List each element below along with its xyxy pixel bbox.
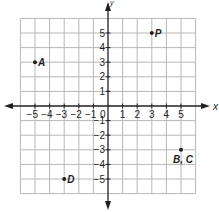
y-tick-label: −5 (94, 174, 106, 185)
x-axis-label: x (212, 101, 219, 112)
y-tick-label: −3 (94, 144, 106, 155)
x-tick-label: 3 (149, 109, 155, 120)
point-label: A (37, 57, 45, 68)
y-tick-label: 3 (99, 57, 105, 68)
y-tick-label: 5 (99, 28, 105, 39)
x-tick-label: 5 (178, 109, 184, 120)
y-tick-label: 1 (99, 86, 105, 97)
point-bc (179, 148, 183, 152)
point-d (62, 177, 66, 181)
y-tick-label: −4 (94, 159, 106, 170)
x-tick-label: −2 (70, 109, 82, 120)
coordinate-plane: xy −5−4−3−2−1012345−5−4−3−2−112345 APB, … (0, 0, 219, 212)
x-tick-label: 2 (134, 109, 140, 120)
y-tick-label: −2 (94, 130, 106, 141)
x-tick-label: −5 (27, 109, 39, 120)
x-tick-label: 1 (120, 109, 126, 120)
point-a (33, 60, 37, 64)
point-label: P (155, 28, 162, 39)
x-axis-left-arrow-icon (4, 103, 13, 109)
x-tick-label: 4 (164, 109, 170, 120)
point-label: D (67, 174, 74, 185)
y-tick-label: 2 (99, 71, 105, 82)
x-axis-right-arrow-icon (201, 103, 210, 109)
y-tick-label: −1 (94, 115, 106, 126)
point-label: B, C (173, 154, 194, 165)
point-p (150, 31, 154, 35)
x-tick-label: −3 (56, 109, 68, 120)
y-tick-label: 4 (99, 42, 105, 53)
x-tick-label: −4 (41, 109, 53, 120)
y-axis-down-arrow-icon (105, 201, 111, 210)
y-axis-label: y (109, 0, 114, 7)
